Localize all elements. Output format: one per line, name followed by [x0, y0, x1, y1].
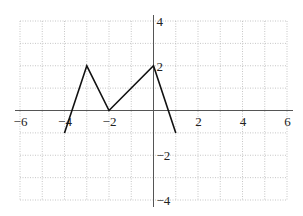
x-tick-label: −2	[103, 114, 117, 129]
y-tick-label: −2	[157, 148, 171, 163]
x-tick-label: −6	[14, 114, 28, 129]
axes	[15, 15, 293, 207]
y-tick-label: 4	[157, 14, 164, 29]
x-tick-label: 2	[195, 114, 202, 129]
x-tick-label: 4	[240, 114, 247, 129]
x-tick-label: 6	[284, 114, 291, 129]
line-chart: −6−4−2246 42−2−4	[0, 0, 303, 216]
y-tick-label: −4	[157, 193, 171, 208]
x-tick-labels: −6−4−2246	[14, 114, 292, 129]
y-tick-label: 2	[157, 59, 164, 74]
function-graph-line	[65, 66, 176, 133]
